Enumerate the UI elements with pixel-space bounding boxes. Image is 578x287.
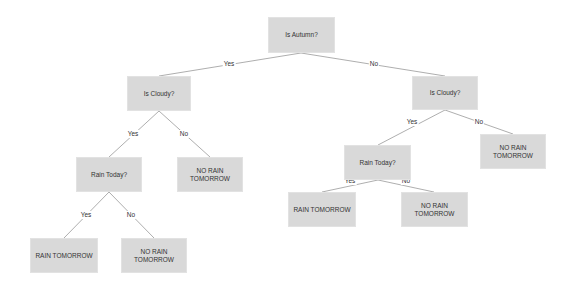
node-label: Is Autumn? xyxy=(285,31,318,39)
node-no-rain-tomorrow: NO RAIN TOMORROW xyxy=(401,192,468,227)
node-label: NO RAIN TOMORROW xyxy=(415,202,455,218)
node-label: Rain Today? xyxy=(91,171,127,179)
node-no-rain-tomorrow: NO RAIN TOMORROW xyxy=(177,157,243,192)
node-label: RAIN TOMORROW xyxy=(35,252,92,260)
edge-label-no: No xyxy=(126,211,136,219)
node-label: NO RAIN TOMORROW xyxy=(134,248,174,264)
node-label: Is Cloudy? xyxy=(144,90,175,98)
edge-right-cloudy-yes xyxy=(378,110,445,145)
edge-label-yes: Yes xyxy=(80,211,93,219)
node-rain-today-left: Rain Today? xyxy=(76,157,142,192)
node-label: Rain Today? xyxy=(359,159,395,167)
decision-tree-canvas: Yes No Yes No Yes No Yes No Yes No Is Au… xyxy=(0,0,578,287)
edge-label-yes: Yes xyxy=(406,118,419,126)
edge-label-no: No xyxy=(474,118,484,126)
node-rain-tomorrow: RAIN TOMORROW xyxy=(288,192,356,227)
node-label: NO RAIN TOMORROW xyxy=(493,144,533,160)
node-no-rain-tomorrow: NO RAIN TOMORROW xyxy=(480,134,546,169)
node-label: NO RAIN TOMORROW xyxy=(190,167,230,183)
node-rain-today-right: Rain Today? xyxy=(344,145,411,180)
node-is-cloudy-right: Is Cloudy? xyxy=(412,76,478,110)
edge-label-no: No xyxy=(179,130,189,138)
node-is-cloudy-left: Is Cloudy? xyxy=(127,76,191,111)
edge-label-no: No xyxy=(369,60,379,68)
edge-label-yes: Yes xyxy=(223,60,236,68)
node-label: RAIN TOMORROW xyxy=(293,206,350,214)
node-rain-tomorrow: RAIN TOMORROW xyxy=(30,238,98,273)
node-no-rain-tomorrow: NO RAIN TOMORROW xyxy=(121,238,187,273)
node-label: Is Cloudy? xyxy=(430,89,461,97)
node-is-autumn: Is Autumn? xyxy=(268,17,335,53)
edge-label-yes: Yes xyxy=(127,130,140,138)
